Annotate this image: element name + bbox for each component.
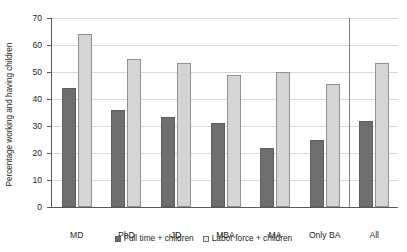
bar-all-series-0 — [359, 121, 373, 207]
gridline — [52, 72, 398, 73]
y-tick-label: 60 — [2, 40, 42, 50]
legend-swatch-icon — [115, 236, 121, 242]
bar-phd-series-0 — [111, 110, 125, 207]
legend-label: Full time + children — [124, 233, 194, 244]
bar-only-ba-series-0 — [310, 140, 324, 208]
bar-phd-series-1 — [127, 59, 141, 208]
legend-label: Labor force + children — [212, 233, 292, 244]
y-tick-label: 70 — [2, 13, 42, 23]
y-tick-label: 20 — [2, 148, 42, 158]
chart-legend: Full time + childrenLabor force + childr… — [0, 233, 407, 244]
bar-md-series-1 — [78, 34, 92, 207]
bar-mba-series-1 — [227, 75, 241, 207]
y-axis-line — [51, 18, 52, 208]
gridline — [52, 180, 398, 181]
y-tick-label: 30 — [2, 121, 42, 131]
plot-area: 010203040506070MDPhDJDMBAMAOnly BAAll — [51, 18, 398, 208]
gridline — [52, 153, 398, 154]
group-separator — [349, 18, 350, 208]
y-tick-label: 40 — [2, 94, 42, 104]
bar-chart: Percentage working and having children 0… — [0, 0, 407, 252]
legend-entry-0[interactable]: Full time + children — [115, 233, 194, 244]
gridline — [52, 99, 398, 100]
legend-swatch-icon — [203, 236, 209, 242]
y-tick-label: 0 — [2, 202, 42, 212]
gridline — [52, 18, 398, 19]
bar-all-series-1 — [375, 63, 389, 207]
bar-ma-series-0 — [260, 148, 274, 207]
bar-only-ba-series-1 — [326, 84, 340, 207]
y-tick-label: 10 — [2, 175, 42, 185]
bar-mba-series-0 — [211, 123, 225, 207]
bar-jd-series-0 — [161, 117, 175, 207]
bar-ma-series-1 — [276, 72, 290, 207]
x-axis-line — [51, 207, 398, 208]
legend-entry-1[interactable]: Labor force + children — [203, 233, 292, 244]
y-tick-label: 50 — [2, 67, 42, 77]
plot-inner: 010203040506070MDPhDJDMBAMAOnly BAAll — [51, 18, 398, 208]
gridline — [52, 45, 398, 46]
gridline — [52, 126, 398, 127]
bar-jd-series-1 — [177, 63, 191, 207]
bar-md-series-0 — [62, 88, 76, 207]
